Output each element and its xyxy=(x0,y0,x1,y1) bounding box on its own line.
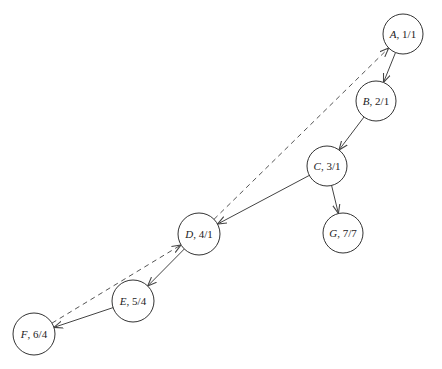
node-label: F, 6/4 xyxy=(20,328,48,340)
node-d: D, 4/1 xyxy=(178,213,220,255)
node-name: D xyxy=(184,228,193,240)
node-label: E, 5/4 xyxy=(119,295,147,307)
nodes-layer: A, 1/1B, 2/1C, 3/1D, 4/1E, 5/4F, 6/4G, 7… xyxy=(13,14,423,355)
node-c: C, 3/1 xyxy=(307,146,347,186)
node-value: 5/4 xyxy=(132,295,147,307)
node-label: A, 1/1 xyxy=(389,28,416,40)
node-b: B, 2/1 xyxy=(356,81,396,121)
node-label: D, 4/1 xyxy=(184,228,213,240)
tree-edge-e-to-f xyxy=(54,308,113,328)
tree-edge-c-to-g xyxy=(332,186,339,214)
back-edge-d-to-a xyxy=(214,48,389,219)
node-label: G, 7/7 xyxy=(329,227,357,239)
node-value: 2/1 xyxy=(375,95,389,107)
node-value: 1/1 xyxy=(402,28,416,40)
node-label: C, 3/1 xyxy=(314,160,341,172)
node-label: B, 2/1 xyxy=(363,95,389,107)
node-e: E, 5/4 xyxy=(112,280,154,322)
node-g: G, 7/7 xyxy=(323,213,363,253)
tree-edge-c-to-d xyxy=(218,175,310,224)
node-a: A, 1/1 xyxy=(383,14,423,54)
node-value: 4/1 xyxy=(199,228,213,240)
node-value: 7/7 xyxy=(343,227,358,239)
tree-edge-b-to-c xyxy=(339,117,364,150)
node-f: F, 6/4 xyxy=(13,313,55,355)
node-value: 6/4 xyxy=(33,328,48,340)
node-name: G xyxy=(329,227,337,239)
edges-layer xyxy=(52,48,396,327)
tree-edge-d-to-e xyxy=(148,249,185,286)
tree-edge-a-to-b xyxy=(384,53,396,83)
graph-canvas: A, 1/1B, 2/1C, 3/1D, 4/1E, 5/4F, 6/4G, 7… xyxy=(0,0,442,369)
node-value: 3/1 xyxy=(326,160,340,172)
